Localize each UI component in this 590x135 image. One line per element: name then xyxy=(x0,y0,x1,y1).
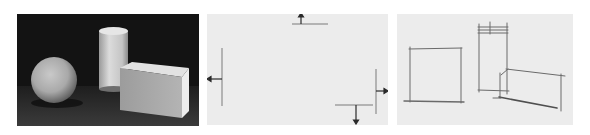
sketch-boundary-arrows xyxy=(207,14,388,125)
still-life-photo xyxy=(17,14,199,126)
still-life-illustration xyxy=(17,14,199,126)
arrow-down-icon xyxy=(354,105,359,124)
box-block-shape xyxy=(493,69,565,111)
block-in-drawing xyxy=(397,14,573,125)
sphere xyxy=(31,57,77,103)
cylinder-block-rect xyxy=(478,22,509,94)
arrow-up-icon xyxy=(299,14,304,24)
sketch-block-in xyxy=(397,14,573,125)
sphere-block-square xyxy=(404,47,464,103)
rectangular-box xyxy=(120,62,189,118)
arrow-right-icon xyxy=(376,89,388,94)
arrow-left-icon xyxy=(207,77,222,82)
boundary-marks-drawing xyxy=(207,14,388,125)
